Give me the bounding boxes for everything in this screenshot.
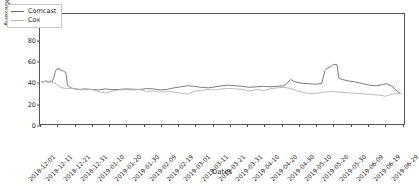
y-tick-label: 0 xyxy=(32,123,36,130)
y-tick-mark xyxy=(37,83,40,84)
x-tick-mark xyxy=(316,124,317,127)
y-tick-label: 40 xyxy=(28,80,36,87)
x-tick-mark xyxy=(230,124,231,127)
x-tick-mark xyxy=(299,124,300,127)
legend-label-cox: Cox xyxy=(28,16,40,25)
x-tick-mark xyxy=(333,124,334,127)
series-line-cox xyxy=(42,81,401,97)
x-tick-mark xyxy=(144,124,145,127)
x-tick-mark xyxy=(161,124,162,127)
legend-item-comcast: Comcast xyxy=(11,7,56,16)
series-canvas xyxy=(40,14,404,124)
x-tick-mark xyxy=(282,124,283,127)
y-tick-mark xyxy=(37,62,40,63)
y-tick-mark xyxy=(37,104,40,105)
y-tick-label: 20 xyxy=(28,101,36,108)
x-tick-mark xyxy=(126,124,127,127)
x-tick-mark xyxy=(264,124,265,127)
x-tick-mark xyxy=(57,124,58,127)
x-tick-mark xyxy=(195,124,196,127)
y-tick-label: 80 xyxy=(28,37,36,44)
x-tick-mark xyxy=(403,124,404,127)
x-tick-mark xyxy=(351,124,352,127)
x-tick-mark xyxy=(109,124,110,127)
legend: Comcast Cox xyxy=(7,4,62,28)
legend-swatch-cox xyxy=(11,20,24,21)
legend-item-cox: Cox xyxy=(11,16,56,25)
x-tick-mark xyxy=(75,124,76,127)
x-tick-mark xyxy=(213,124,214,127)
x-tick-mark xyxy=(368,124,369,127)
x-axis-label: Dates xyxy=(39,168,405,176)
legend-label-comcast: Comcast xyxy=(28,7,56,16)
x-tick-mark xyxy=(385,124,386,127)
x-tick-mark xyxy=(92,124,93,127)
y-tick-label: 60 xyxy=(28,59,36,66)
chart-figure: Average RTT (milliseconds) 0204060801002… xyxy=(0,0,419,186)
plot-area: 0204060801002018-12-012018-12-112018-12-… xyxy=(39,13,405,125)
x-tick-mark xyxy=(247,124,248,127)
x-tick-mark xyxy=(178,124,179,127)
legend-swatch-comcast xyxy=(11,11,24,12)
y-tick-mark xyxy=(37,40,40,41)
x-tick-mark xyxy=(40,124,41,127)
